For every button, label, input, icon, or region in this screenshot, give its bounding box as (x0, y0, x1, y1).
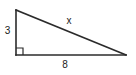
right-triangle-figure: 3 x 8 (0, 0, 136, 75)
hypotenuse-label: x (63, 16, 75, 26)
horizontal-leg-label: 8 (59, 60, 71, 70)
vertical-leg-label: 3 (2, 26, 13, 36)
